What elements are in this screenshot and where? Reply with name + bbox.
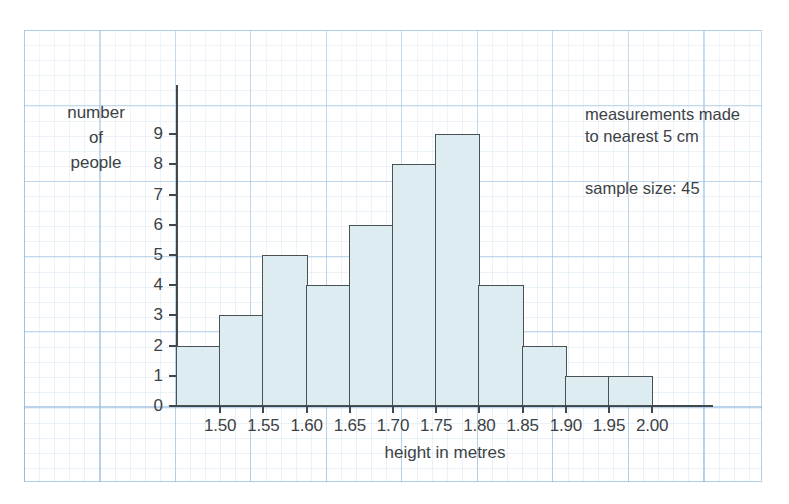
annotation-measurement: measurements made to nearest 5 cm (585, 103, 775, 147)
x-axis-tick (435, 405, 437, 413)
y-axis-title-line-1: number (50, 100, 142, 125)
histogram-plot: number of people height in metres measur… (0, 0, 789, 504)
histogram-bar (219, 315, 264, 406)
y-axis-title-line-2: of (50, 125, 142, 150)
y-axis-tick-label: 1 (141, 367, 163, 384)
y-axis-title: number of people (50, 100, 142, 175)
y-axis-tick-label: 7 (141, 186, 163, 203)
y-axis-tick (169, 284, 176, 286)
histogram-bar (608, 376, 653, 406)
x-axis-tick (522, 405, 524, 413)
y-axis-tick (169, 375, 176, 377)
histogram-bar (176, 346, 221, 406)
x-axis-tick (349, 405, 351, 413)
y-axis-tick-label: 2 (141, 337, 163, 354)
x-axis-tick (219, 405, 221, 413)
y-axis-tick (169, 314, 176, 316)
histogram-bar (565, 376, 610, 406)
histogram-bar (306, 285, 351, 406)
y-axis-tick (169, 345, 176, 347)
y-axis-tick-label: 4 (141, 276, 163, 293)
y-axis-tick (169, 224, 176, 226)
y-axis-tick-label: 5 (141, 246, 163, 263)
histogram-bar (349, 225, 394, 406)
annotation-sample-size: sample size: 45 (585, 177, 775, 199)
histogram-bar (522, 346, 567, 406)
y-axis-tick (169, 254, 176, 256)
y-axis-tick-label: 6 (141, 216, 163, 233)
histogram-bar (392, 164, 437, 406)
x-axis-tick-label: 2.00 (625, 416, 679, 436)
x-axis-tick (392, 405, 394, 413)
y-axis-tick-label: 3 (141, 306, 163, 323)
x-axis-title: height in metres (250, 443, 640, 463)
annotation-measurement-line-2: to nearest 5 cm (585, 125, 775, 147)
y-axis-tick-label: 9 (141, 125, 163, 142)
annotation-measurement-line-1: measurements made (585, 103, 775, 125)
histogram-bar (435, 134, 480, 406)
histogram-bar (478, 285, 523, 406)
histogram-bar (262, 255, 307, 406)
x-axis-tick (651, 405, 653, 413)
y-axis-title-line-3: people (50, 150, 142, 175)
x-axis-tick (565, 405, 567, 413)
y-axis-tick-label: 8 (141, 155, 163, 172)
x-axis-tick (608, 405, 610, 413)
x-axis-tick (262, 405, 264, 413)
y-axis-tick (169, 405, 176, 407)
x-axis-tick (478, 405, 480, 413)
x-axis-tick (306, 405, 308, 413)
y-axis-tick (169, 133, 176, 135)
y-axis-tick-label: 0 (141, 397, 163, 414)
y-axis-tick (169, 194, 176, 196)
y-axis-tick (169, 163, 176, 165)
